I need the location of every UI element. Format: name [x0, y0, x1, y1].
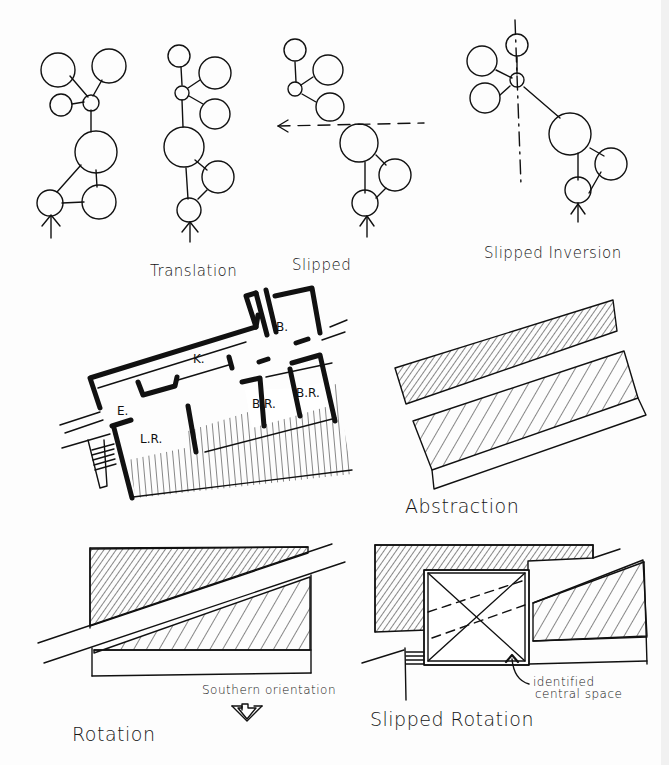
room-label-entry: E.	[117, 404, 128, 418]
slipped-rotation-diagram	[362, 545, 647, 700]
sketch-drawings	[0, 0, 669, 765]
caption-slipped-inversion: Slipped Inversion	[484, 244, 622, 262]
bubble-diagram-slipped-inversion	[467, 20, 627, 222]
room-label-living-room: L.R.	[140, 432, 162, 446]
caption-rotation: Rotation	[72, 723, 155, 745]
room-label-bedroom-2: B.R.	[296, 386, 320, 400]
room-label-kitchen: K.	[193, 352, 205, 366]
sketch-sheet: K. B. E. L.R. B.R. B.R. Translation Slip…	[0, 0, 669, 765]
bubble-diagram-translation	[164, 45, 234, 242]
annotation-southern-orientation: Southern orientation	[202, 684, 336, 696]
annotation-central-space: central space	[535, 688, 622, 700]
caption-translation: Translation	[150, 262, 237, 280]
room-label-bath: B.	[276, 320, 288, 334]
caption-abstraction: Abstraction	[405, 495, 519, 517]
caption-slipped: Slipped	[292, 256, 351, 274]
bubble-diagram-original	[37, 49, 126, 238]
room-label-bedroom-1: B.R.	[252, 397, 276, 411]
bubble-diagram-slipped	[278, 39, 424, 237]
caption-slipped-rotation: Slipped Rotation	[370, 708, 534, 730]
abstraction-bands	[395, 300, 646, 489]
